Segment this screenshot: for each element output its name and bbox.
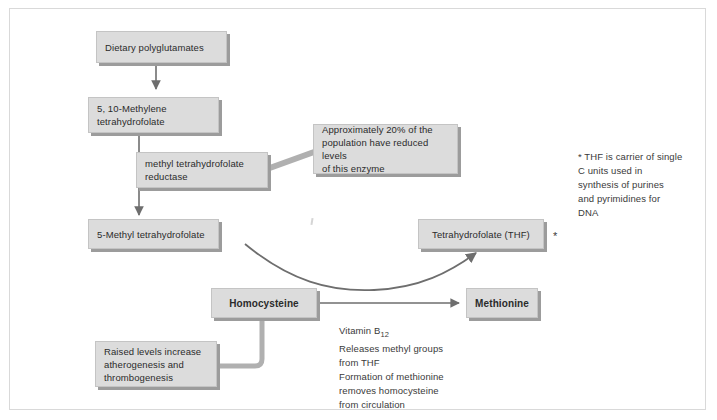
annotation-vitamin-b12-body: Releases methyl groups from THF Formatio… — [339, 343, 444, 410]
node-methylene-thf-label: 5, 10-Methylene tetrahydrofolate — [97, 102, 167, 128]
node-homocysteine[interactable]: Homocysteine — [211, 288, 317, 318]
annotation-vitamin-b12: Vitamin B12 Releases methyl groups from … — [339, 310, 499, 412]
thf-asterisk-marker: * — [553, 231, 557, 242]
node-dietary-polyglutamates[interactable]: Dietary polyglutamates — [96, 31, 227, 63]
node-mthfr-enzyme-label: methyl tetrahydrofolate reductase — [145, 157, 244, 183]
node-raised-levels[interactable]: Raised levels increase atherogenesis and… — [95, 341, 217, 387]
node-population-note[interactable]: Approximately 20% of the population have… — [313, 124, 458, 174]
node-methyl-thf-label: 5-Methyl tetrahydrofolate — [97, 228, 205, 241]
node-mthfr-enzyme[interactable]: methyl tetrahydrofolate reductase — [136, 152, 268, 188]
node-homocysteine-label: Homocysteine — [229, 297, 299, 310]
node-tetrahydrofolate[interactable]: Tetrahydrofolate (THF) — [418, 219, 544, 249]
vitamin-b12-text: Vitamin B — [339, 325, 380, 336]
diagram-canvas: Dietary polyglutamates 5, 10-Methylene t… — [0, 0, 717, 420]
node-raised-levels-label: Raised levels increase atherogenesis and… — [104, 345, 201, 384]
node-methionine-label: Methionine — [475, 297, 529, 310]
node-tetrahydrofolate-label: Tetrahydrofolate (THF) — [432, 228, 530, 241]
node-population-note-label: Approximately 20% of the population have… — [322, 123, 449, 175]
annotation-thf-footnote: * THF is carrier of single C units used … — [578, 150, 708, 220]
arrow-methylthf-to-thf — [245, 244, 476, 290]
connector-raisedlevels-to-homocysteine — [217, 316, 262, 366]
node-methylene-thf[interactable]: 5, 10-Methylene tetrahydrofolate — [88, 97, 219, 133]
connector-enzyme-to-population-note — [267, 152, 314, 169]
annotation-vitamin-b12-first-line: Vitamin B12 — [339, 325, 389, 336]
vitamin-b12-subscript: 12 — [380, 330, 389, 339]
node-methyl-thf[interactable]: 5-Methyl tetrahydrofolate — [88, 219, 219, 249]
node-dietary-polyglutamates-label: Dietary polyglutamates — [105, 41, 204, 54]
